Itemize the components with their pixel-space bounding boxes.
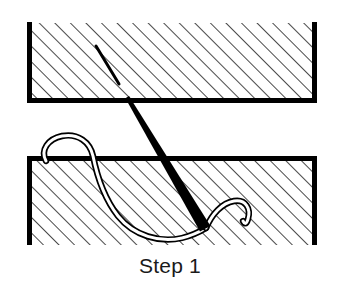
figure-canvas: Step 1 bbox=[0, 0, 340, 297]
upper-block-hatch-fill bbox=[28, 23, 316, 101]
step-caption: Step 1 bbox=[0, 253, 340, 279]
upper-tissue-block bbox=[27, 22, 317, 101]
